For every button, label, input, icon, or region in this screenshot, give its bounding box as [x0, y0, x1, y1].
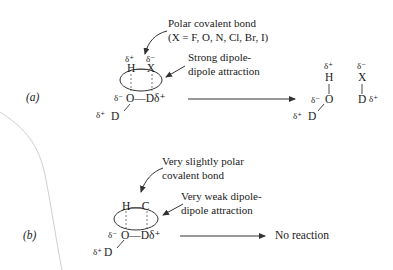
- arrow-polar-bond-b: [141, 168, 163, 192]
- annotation-weak-attraction-line1: Very weak dipole-: [181, 191, 262, 202]
- panel-label-b: (b): [23, 230, 36, 242]
- arrow-attraction-b: [163, 204, 183, 215]
- panel-label-a: (a): [26, 92, 39, 104]
- product-delta-plus-h: δ⁺: [324, 62, 333, 71]
- annotation-strong-attraction-line2: dipole attraction: [188, 66, 260, 77]
- arrow-polar-bond-a: [145, 31, 167, 54]
- delta-plus-d-b: δ⁺: [93, 248, 102, 257]
- annotation-polar-bond-line1: Polar covalent bond: [168, 18, 256, 29]
- atom-d: D: [111, 111, 119, 123]
- product-delta-minus-x: δ⁻: [357, 62, 366, 71]
- product-atom-h: H: [325, 72, 333, 84]
- page-edge-curve: [0, 112, 62, 270]
- no-reaction-label: No reaction: [275, 230, 329, 242]
- delta-minus-o: δ⁻: [114, 94, 123, 103]
- atom-d-b: D: [104, 247, 112, 259]
- product-delta-minus-o: δ⁻: [311, 96, 320, 105]
- product-atom-d2: D: [358, 94, 366, 106]
- bond-o-d: O—Dδ⁺: [126, 93, 166, 105]
- product-atom-o: O: [325, 94, 333, 106]
- annotation-polar-bond-line2: (X = F, O, N, Cl, Br, I): [168, 32, 268, 43]
- bond-h-x: H—X: [127, 63, 155, 75]
- bond-h-c: H—C: [122, 201, 149, 213]
- bond-o-d-lower-a: [124, 104, 130, 111]
- product-atom-x: X: [358, 72, 366, 84]
- annotation-slightly-polar-line1: Very slightly polar: [162, 156, 244, 167]
- annotation-strong-attraction-line1: Strong dipole-: [188, 52, 251, 63]
- product-delta-plus-d: δ⁺: [293, 112, 302, 121]
- product-atom-d: D: [308, 111, 316, 123]
- delta-minus-o-b: δ⁻: [108, 231, 117, 240]
- product-delta-plus-d2: δ⁺: [369, 95, 378, 104]
- arrow-attraction-a: [166, 66, 185, 77]
- annotation-weak-attraction-line2: dipole attraction: [181, 205, 253, 216]
- delta-plus-d: δ⁺: [96, 111, 105, 120]
- annotation-slightly-polar-line2: covalent bond: [162, 170, 224, 181]
- bond-o-d-b: O—Dδ⁺: [121, 230, 161, 242]
- bond-o-d-product: [318, 104, 324, 111]
